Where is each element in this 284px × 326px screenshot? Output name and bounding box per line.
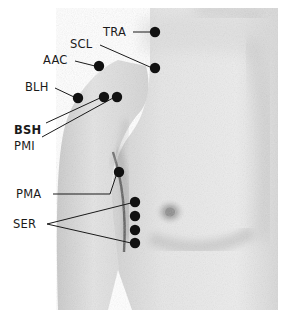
marker-blh[interactable] [73, 93, 83, 103]
label-aac: AAC [43, 53, 67, 67]
label-ser: SER [13, 217, 36, 231]
label-scl: SCL [70, 37, 93, 51]
marker-scl[interactable] [150, 63, 160, 73]
marker-bsh[interactable] [99, 92, 109, 102]
marker-tra[interactable] [150, 27, 160, 37]
marker-ser-3[interactable] [130, 225, 140, 235]
marker-ser-1[interactable] [130, 197, 140, 207]
label-pmi: PMI [14, 139, 35, 153]
marker-ser-2[interactable] [130, 211, 140, 221]
marker-ser-4[interactable] [130, 238, 140, 248]
label-bsh: BSH [14, 123, 41, 137]
marker-pma[interactable] [114, 167, 124, 177]
label-blh: BLH [25, 80, 49, 94]
label-tra: TRA [102, 25, 126, 39]
supraclavicular-shadow [196, 8, 262, 16]
figure-svg: TRA SCL AAC BLH BSH PMI PMA SER [0, 0, 284, 326]
photograph [50, 8, 278, 310]
marker-aac[interactable] [94, 61, 104, 71]
anatomical-figure: TRA SCL AAC BLH BSH PMI PMA SER [0, 0, 284, 326]
nipple [165, 208, 175, 217]
label-pma: PMA [16, 187, 41, 201]
marker-pmi[interactable] [112, 92, 122, 102]
